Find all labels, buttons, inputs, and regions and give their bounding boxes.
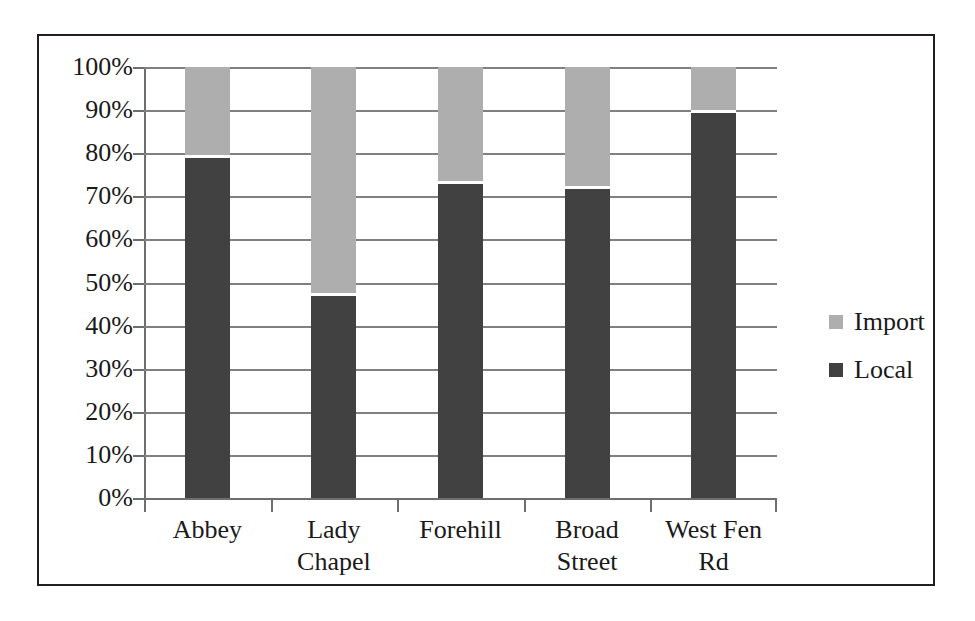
chart-legend: ImportLocal bbox=[829, 298, 969, 394]
y-axis-tick-label: 40% bbox=[85, 313, 133, 339]
legend-label: Local bbox=[854, 357, 913, 383]
x-axis-category-label: Forehill bbox=[397, 514, 524, 546]
bar-segment-import[interactable] bbox=[311, 67, 356, 293]
x-axis-tick-mark bbox=[775, 498, 777, 512]
y-axis-tick-mark bbox=[133, 196, 144, 198]
chart-frame: 100%90%80%70%60%50%40%30%20%10%0% AbbeyL… bbox=[37, 34, 935, 586]
y-axis-tick-labels: 100%90%80%70%60%50%40%30%20%10%0% bbox=[39, 36, 139, 584]
y-axis-tick-label: 100% bbox=[72, 54, 133, 80]
legend-label: Import bbox=[854, 309, 925, 335]
legend-item-import[interactable]: Import bbox=[829, 298, 969, 346]
y-axis-tick-label: 0% bbox=[98, 485, 133, 511]
bar-segment-local[interactable] bbox=[438, 181, 483, 498]
bar-forehill[interactable] bbox=[438, 67, 483, 498]
bar-segment-local[interactable] bbox=[565, 186, 610, 498]
x-axis-tick-mark bbox=[144, 498, 146, 512]
x-axis-category-label: West Fen Rd bbox=[650, 514, 777, 577]
y-axis-tick-label: 50% bbox=[85, 270, 133, 296]
x-axis-tick-mark bbox=[524, 498, 526, 512]
bar-segment-import[interactable] bbox=[691, 67, 736, 110]
y-axis-tick-label: 80% bbox=[85, 140, 133, 166]
y-axis-tick-mark bbox=[133, 498, 144, 500]
y-axis-tick-mark bbox=[133, 110, 144, 112]
bar-west-fen-rd[interactable] bbox=[691, 67, 736, 498]
bar-segment-import[interactable] bbox=[438, 67, 483, 181]
y-axis-tick-mark bbox=[133, 239, 144, 241]
bar-segment-import[interactable] bbox=[565, 67, 610, 186]
x-axis-category-label: Broad Street bbox=[524, 514, 651, 577]
y-axis-tick-mark bbox=[133, 283, 144, 285]
bar-segment-local[interactable] bbox=[311, 293, 356, 498]
x-axis-tick-mark bbox=[650, 498, 652, 512]
bar-segment-local[interactable] bbox=[691, 110, 736, 498]
x-axis-category-label: Abbey bbox=[144, 514, 271, 546]
bar-lady-chapel[interactable] bbox=[311, 67, 356, 498]
y-axis-tick-mark bbox=[133, 455, 144, 457]
legend-swatch-icon bbox=[829, 315, 843, 329]
y-axis-tick-mark bbox=[133, 67, 144, 69]
legend-item-local[interactable]: Local bbox=[829, 346, 969, 394]
bar-abbey[interactable] bbox=[185, 67, 230, 498]
y-axis-tick-mark bbox=[133, 153, 144, 155]
y-axis-tick-label: 70% bbox=[85, 183, 133, 209]
bar-segment-local[interactable] bbox=[185, 155, 230, 498]
x-axis-tick-mark bbox=[271, 498, 273, 512]
y-axis-tick-label: 30% bbox=[85, 356, 133, 382]
y-axis-tick-mark bbox=[133, 326, 144, 328]
x-axis-category-label: Lady Chapel bbox=[271, 514, 398, 577]
y-axis-tick-mark bbox=[133, 412, 144, 414]
x-axis-tick-mark bbox=[397, 498, 399, 512]
bar-segment-import[interactable] bbox=[185, 67, 230, 155]
y-axis-tick-label: 90% bbox=[85, 97, 133, 123]
y-axis-tick-label: 10% bbox=[85, 442, 133, 468]
y-axis-tick-label: 60% bbox=[85, 226, 133, 252]
plot-area bbox=[144, 67, 777, 498]
legend-swatch-icon bbox=[829, 363, 843, 377]
chart-plot-wrapper: 100%90%80%70%60%50%40%30%20%10%0% AbbeyL… bbox=[39, 36, 933, 584]
y-axis-tick-mark bbox=[133, 369, 144, 371]
x-axis-tick-marks bbox=[144, 498, 777, 514]
x-axis-category-labels: AbbeyLady ChapelForehillBroad StreetWest… bbox=[144, 514, 777, 584]
bar-broad-street[interactable] bbox=[565, 67, 610, 498]
y-axis-tick-label: 20% bbox=[85, 399, 133, 425]
